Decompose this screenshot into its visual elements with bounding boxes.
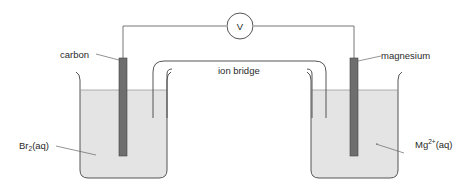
svg-text:V: V (237, 21, 244, 32)
ion-bridge-label: ion bridge (218, 65, 260, 76)
bromine-solution-label: Br2(aq) (19, 140, 49, 152)
magnesium-label: magnesium (381, 50, 430, 61)
voltmeter-icon: V (227, 13, 253, 39)
carbon-label: carbon (60, 49, 89, 60)
magnesium-ion-solution-label: Mg2+(aq) (415, 138, 453, 150)
electrochemical-cell-diagram: V carbon magnesium ion bridge Br2(aq) Mg… (0, 0, 476, 196)
magnesium-electrode (350, 58, 358, 156)
carbon-electrode (119, 58, 127, 156)
